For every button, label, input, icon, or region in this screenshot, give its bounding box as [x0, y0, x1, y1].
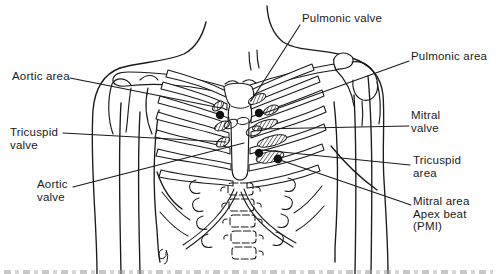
left-scapula-line: [146, 88, 152, 134]
left-rib-7: [159, 170, 233, 186]
right-lower-ribs: [294, 186, 324, 231]
vertebra: [231, 231, 256, 243]
label-tricuspid-valve: Tricuspid valve: [10, 126, 58, 151]
right-torso-side: [334, 102, 338, 262]
chest-line-art: [0, 0, 497, 274]
label-mitral-valve: Mitral valve: [411, 109, 440, 134]
label-pulmonic-valve: Pulmonic valve: [302, 12, 382, 25]
left-arm-inner-line-2: [138, 112, 140, 274]
left-arm-inner-line: [119, 103, 121, 274]
right-arm-outline: [352, 58, 388, 274]
pulmonic-area-dot: [255, 109, 263, 117]
left-rib-6: [156, 149, 231, 170]
mitral-area-apex-dot: [274, 155, 283, 164]
label-tricuspid-area: Tricuspid area: [413, 154, 461, 179]
anatomy-diagram: Pulmonic valve Pulmonic area Aortic area…: [0, 0, 497, 274]
right-scapula-spine: [336, 70, 354, 106]
right-acromion: [334, 53, 353, 70]
sternal-notch-bumps: [225, 50, 259, 84]
left-lower-ribs: [160, 192, 190, 236]
vertebra: [230, 215, 255, 227]
aortic-area-dot: [216, 111, 224, 119]
vertebra-processes: [221, 187, 263, 255]
right-humerus-head: [352, 62, 378, 101]
right-arm-inner-line-2: [368, 76, 372, 274]
label-aortic-area: Aortic area: [12, 70, 70, 83]
label-mitral-area: Mitral area Apex beat (PMI): [413, 195, 470, 233]
left-costal-margin: [183, 189, 237, 249]
mitral-area-leader: [280, 160, 411, 205]
label-pulmonic-area: Pulmonic area: [411, 50, 487, 63]
right-arm-inner-line: [354, 95, 356, 274]
neck-left-line: [120, 22, 206, 68]
cropped-caption-edge: [4, 270, 493, 274]
vertebra: [232, 247, 256, 259]
left-arm-outline: [92, 68, 120, 274]
tricuspid-valve-leader: [63, 133, 226, 142]
label-aortic-valve: Aortic valve: [37, 178, 68, 203]
